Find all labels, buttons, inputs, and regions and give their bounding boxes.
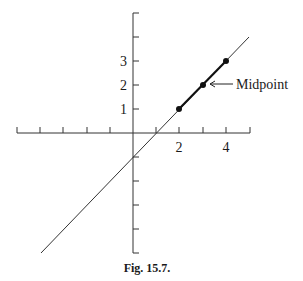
y-tick-label-3: 3 [120, 54, 127, 69]
x-tick-label-4: 4 [223, 140, 230, 155]
point-4-3 [223, 58, 229, 64]
midpoint-label: Midpoint [236, 77, 288, 92]
y-tick-label-2: 2 [120, 78, 127, 93]
figure-caption: Fig. 15.7. [124, 261, 171, 275]
point-2-1 [176, 106, 182, 112]
arrow-icon [210, 81, 233, 87]
y-tick-label-1: 1 [120, 102, 127, 117]
figure-canvas: 2 4 1 2 3 Midpoint Fig. 15.7. [0, 0, 303, 281]
x-tick-label-2: 2 [176, 140, 183, 155]
midpoint-3-2 [200, 82, 206, 88]
